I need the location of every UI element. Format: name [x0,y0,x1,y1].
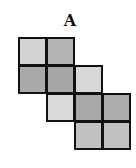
grid-cell [46,37,75,66]
grid-cell [102,121,131,150]
grid-cell [74,121,103,150]
grid-cell [102,93,131,122]
grid-cell [18,37,47,66]
grid-cell [74,65,103,94]
figure-label: A [0,11,136,30]
grid-cell [18,65,47,94]
grid-cell [74,93,103,122]
grid-cell [46,65,75,94]
grid-cell [46,93,75,122]
